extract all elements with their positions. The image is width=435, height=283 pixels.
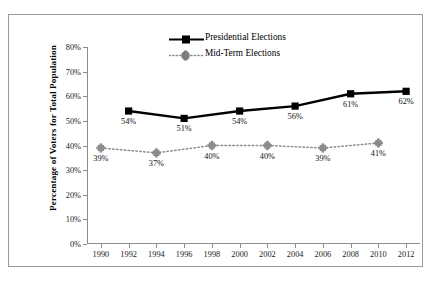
x-axis-tick-label: 2004	[287, 250, 304, 259]
data-point-label: 54%	[232, 117, 247, 126]
y-axis-tick-label: 60%	[66, 92, 81, 101]
data-point-label: 62%	[399, 97, 414, 106]
data-point-marker	[292, 103, 299, 110]
x-axis-tick-mark	[212, 244, 213, 248]
x-axis-tick-mark	[184, 244, 185, 248]
x-axis-tick-label: 2010	[370, 250, 387, 259]
data-point-label: 39%	[315, 154, 330, 163]
y-axis-tick-label: 70%	[66, 67, 81, 76]
y-axis-tick-label: 80%	[66, 43, 81, 52]
data-point-label: 61%	[343, 100, 358, 109]
x-axis-tick-mark	[295, 244, 296, 248]
data-point-marker	[181, 115, 188, 122]
plot-inner: 0%10%20%30%40%50%60%70%80% 1990199219941…	[87, 47, 420, 244]
legend-label-presidential: Presidential Elections	[205, 32, 286, 42]
legend-item-presidential: Presidential Elections	[169, 30, 286, 43]
x-axis-tick-mark	[378, 244, 379, 248]
data-point-label: 40%	[204, 152, 219, 161]
data-point-marker	[207, 141, 216, 150]
x-axis-tick-label: 1992	[120, 250, 137, 259]
data-point-label: 37%	[149, 159, 164, 168]
x-axis-tick-mark	[406, 244, 407, 248]
y-axis-tick-mark	[83, 244, 87, 245]
x-axis-tick-label: 1990	[93, 250, 110, 259]
data-point-marker	[347, 90, 354, 97]
data-point-label: 51%	[177, 124, 192, 133]
x-axis-tick-mark	[240, 244, 241, 248]
data-point-marker	[96, 143, 105, 152]
x-axis-tick-label: 2002	[259, 250, 276, 259]
y-axis-tick-label: 40%	[66, 141, 81, 150]
x-axis-tick-label: 2012	[398, 250, 415, 259]
x-axis-tick-label: 1994	[148, 250, 165, 259]
y-axis-tick-label: 20%	[66, 190, 81, 199]
series-line	[129, 91, 407, 118]
y-axis-tick-label: 30%	[66, 166, 81, 175]
x-axis-tick-mark	[351, 244, 352, 248]
x-axis-tick-label: 2008	[342, 250, 359, 259]
data-point-marker	[374, 138, 383, 147]
series-plot	[87, 47, 420, 244]
data-point-label: 41%	[371, 149, 386, 158]
x-axis-tick-label: 1996	[176, 250, 193, 259]
x-axis-tick-mark	[101, 244, 102, 248]
y-axis-tick-label: 10%	[66, 215, 81, 224]
data-point-marker	[403, 88, 410, 95]
plot-area: 0%10%20%30%40%50%60%70%80% 1990199219941…	[87, 47, 420, 244]
data-point-marker	[263, 141, 272, 150]
x-axis-tick-label: 1998	[204, 250, 221, 259]
data-point-marker	[318, 143, 327, 152]
data-point-label: 40%	[260, 152, 275, 161]
x-axis-tick-mark	[323, 244, 324, 248]
data-point-label: 39%	[93, 154, 108, 163]
y-axis-tick-label: 0%	[70, 240, 81, 249]
data-point-label: 56%	[288, 112, 303, 121]
x-axis-tick-mark	[156, 244, 157, 248]
data-point-label: 54%	[121, 117, 136, 126]
y-axis-tick-label: 50%	[66, 116, 81, 125]
x-axis-tick-label: 2006	[315, 250, 332, 259]
data-point-marker	[152, 148, 161, 157]
data-point-marker	[125, 107, 132, 114]
series-line	[101, 143, 379, 153]
x-axis-tick-label: 2000	[231, 250, 248, 259]
data-point-marker	[236, 107, 243, 114]
presidential-series-marker-icon	[169, 31, 204, 42]
x-axis-tick-mark	[129, 244, 130, 248]
x-axis-tick-mark	[267, 244, 268, 248]
chart-container: Percentage of Voters for Total Populatio…	[8, 14, 423, 267]
